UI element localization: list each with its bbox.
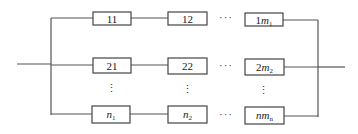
svg-text:22: 22 bbox=[182, 60, 193, 72]
block-12: 12 bbox=[168, 12, 207, 25]
block-nmn: nmn bbox=[245, 107, 284, 124]
col3-vertical-ellipsis: ⋮ bbox=[258, 84, 270, 96]
block-22: 22 bbox=[168, 58, 207, 74]
row3-ellipsis: ··· bbox=[219, 108, 233, 120]
svg-text:21: 21 bbox=[107, 60, 118, 72]
block-n1: n1 bbox=[92, 106, 130, 123]
svg-text:12: 12 bbox=[182, 13, 193, 25]
col2-vertical-ellipsis: ⋮ bbox=[182, 83, 194, 95]
block-1m1: 1m1 bbox=[245, 13, 283, 28]
parallel-series-diagram: 11 12 ··· 1m1 21 22 ··· 2m2 ⋮ ⋮ ⋮ n1 n2 … bbox=[0, 0, 358, 134]
col1-vertical-ellipsis: ⋮ bbox=[106, 82, 118, 94]
block-11: 11 bbox=[93, 12, 131, 25]
block-21: 21 bbox=[93, 58, 131, 73]
svg-text:11: 11 bbox=[107, 13, 118, 25]
row1-ellipsis: ··· bbox=[219, 11, 233, 23]
block-n2: n2 bbox=[168, 106, 207, 123]
row2-ellipsis: ··· bbox=[219, 59, 233, 71]
block-2m2: 2m2 bbox=[245, 59, 284, 75]
